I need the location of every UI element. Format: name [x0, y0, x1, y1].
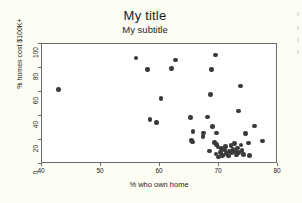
data-point: [208, 92, 213, 97]
x-tick-label: 80: [267, 167, 287, 174]
data-point: [223, 144, 228, 149]
data-point: [190, 140, 195, 145]
data-point: [246, 141, 251, 146]
data-point: [252, 124, 257, 129]
data-point: [236, 109, 241, 114]
x-tick-mark: [277, 163, 278, 166]
data-point: [241, 152, 246, 157]
data-point: [154, 120, 159, 125]
scatter-chart: My title My subtitle % homes cost $100K+…: [0, 0, 302, 203]
chart-subtitle: My subtitle: [0, 24, 290, 35]
edge-artifact-mark: [297, 12, 299, 16]
data-point: [213, 53, 218, 58]
data-point: [243, 131, 248, 136]
edge-artifact-mark: [297, 38, 299, 42]
data-point: [191, 129, 196, 134]
y-tick-label: 60: [32, 91, 39, 109]
x-tick-mark: [41, 163, 42, 166]
data-point: [173, 58, 178, 63]
y-tick-label: 20: [32, 139, 39, 157]
x-tick-label: 40: [31, 167, 51, 174]
x-tick-mark: [159, 163, 160, 166]
data-point: [214, 131, 219, 136]
data-point: [159, 96, 164, 101]
data-point: [56, 87, 61, 92]
data-point: [238, 84, 243, 89]
x-tick-label: 70: [208, 167, 228, 174]
y-tick-label: 80: [32, 67, 39, 85]
data-point: [239, 143, 244, 148]
data-point: [209, 67, 214, 72]
x-tick-mark: [218, 163, 219, 166]
plot-area: [41, 43, 277, 163]
x-tick-label: 50: [90, 167, 110, 174]
x-tick-mark: [100, 163, 101, 166]
x-tick-label: 60: [149, 167, 169, 174]
x-axis-title: % who own home: [41, 180, 277, 189]
data-point: [201, 131, 206, 136]
edge-artifact-mark: [297, 26, 299, 30]
data-point: [260, 139, 265, 144]
edge-artifact-marks: [290, 4, 302, 60]
data-point: [207, 149, 212, 154]
data-point: [169, 66, 174, 71]
data-point: [210, 124, 215, 129]
data-point: [205, 115, 210, 120]
data-point: [145, 67, 150, 72]
data-point: [247, 153, 252, 158]
edge-artifact-mark: [297, 50, 299, 54]
data-points-layer: [42, 44, 276, 162]
data-point: [148, 117, 153, 122]
data-point: [188, 115, 193, 120]
y-axis-title: % homes cost $100K+: [16, 0, 23, 109]
data-point: [134, 56, 139, 61]
y-tick-label: 40: [32, 115, 39, 133]
chart-title: My title: [0, 8, 290, 23]
y-tick-label: 100: [32, 43, 39, 61]
